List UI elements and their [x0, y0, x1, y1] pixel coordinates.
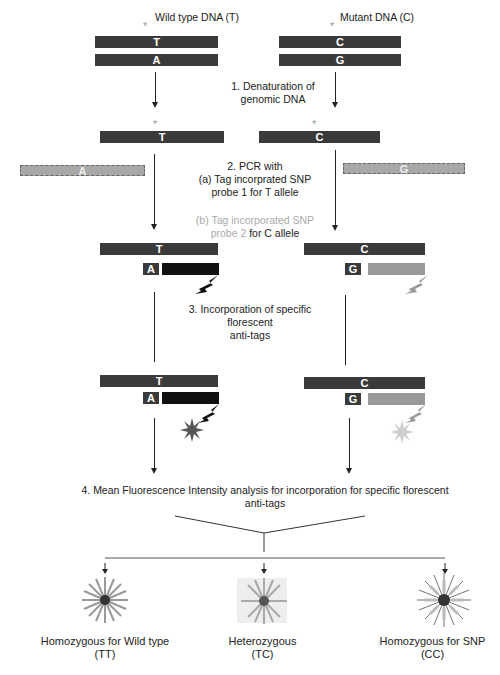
- result-homozygous-snp: Homozygous for SNP (CC): [370, 635, 495, 661]
- bead-heterozygous-icon: [239, 576, 289, 626]
- result-heterozygous: Heterozygous (TC): [205, 635, 320, 661]
- result-homozygous-wild: Homozygous for Wild type (TT): [30, 635, 180, 661]
- bead-homozygous-snp-icon: [416, 572, 472, 628]
- bead-homozygous-wild-icon: [80, 575, 130, 625]
